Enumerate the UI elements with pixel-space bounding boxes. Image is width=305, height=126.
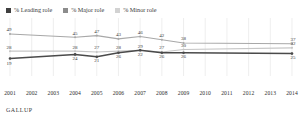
x-axis-tick-2013: 2013 bbox=[265, 89, 277, 97]
x-axis-tick-2008: 2008 bbox=[156, 89, 168, 97]
chart-legend: % Leading role % Major role % Minor role bbox=[6, 6, 156, 14]
data-label: 45 bbox=[73, 31, 79, 36]
cropped-header-text bbox=[0, 0, 305, 5]
data-label: 29 bbox=[138, 44, 144, 49]
series-point[interactable] bbox=[9, 33, 11, 35]
x-axis-tick-2012: 2012 bbox=[243, 89, 255, 97]
data-label: 38 bbox=[181, 36, 187, 41]
data-label: 32 bbox=[291, 41, 297, 46]
series-point[interactable] bbox=[96, 35, 98, 37]
series-point[interactable] bbox=[96, 51, 98, 53]
series-point[interactable] bbox=[183, 49, 185, 51]
data-label: 46 bbox=[138, 30, 144, 35]
x-axis-tick-2007: 2007 bbox=[134, 89, 146, 97]
data-label: 27 bbox=[94, 45, 100, 50]
series-point[interactable] bbox=[9, 50, 11, 52]
x-axis-tick-2009: 2009 bbox=[178, 89, 190, 97]
x-axis-tick-2011: 2011 bbox=[221, 89, 232, 97]
data-label: 24 bbox=[73, 56, 79, 61]
x-axis-tick-2002: 2002 bbox=[26, 89, 38, 97]
series-line--minor-role bbox=[10, 34, 292, 44]
chart-container: % Leading role % Major role % Minor role… bbox=[0, 0, 305, 126]
x-axis-tick-2003: 2003 bbox=[48, 89, 60, 97]
legend-label-major-role: % Major role bbox=[71, 6, 104, 14]
data-label: 43 bbox=[116, 32, 122, 37]
source-label: GALLUP bbox=[6, 106, 33, 115]
legend-item-leading-role[interactable]: % Leading role bbox=[6, 6, 52, 14]
series-point[interactable] bbox=[291, 47, 293, 49]
x-axis-tick-2001: 2001 bbox=[4, 89, 16, 97]
x-axis-tick-2005: 2005 bbox=[91, 89, 103, 97]
line-chart-svg: 4945474346423837282827282927303219242126… bbox=[0, 16, 305, 88]
series-point[interactable] bbox=[74, 36, 76, 38]
x-axis-tick-2006: 2006 bbox=[113, 89, 125, 97]
data-label: 26 bbox=[116, 54, 122, 59]
legend-swatch-leading-role bbox=[6, 8, 11, 13]
series-point[interactable] bbox=[117, 38, 119, 40]
legend-label-minor-role: % Minor role bbox=[123, 6, 156, 14]
data-label: 49 bbox=[7, 27, 13, 32]
legend-label-leading-role: % Leading role bbox=[14, 6, 52, 14]
data-label: 26 bbox=[159, 54, 165, 59]
data-label: 42 bbox=[159, 33, 165, 38]
legend-item-minor-role[interactable]: % Minor role bbox=[115, 6, 156, 14]
data-label: 22 bbox=[138, 52, 144, 57]
x-axis-tick-2004: 2004 bbox=[69, 89, 81, 97]
series-point[interactable] bbox=[139, 35, 141, 37]
data-label: 28 bbox=[7, 45, 13, 50]
data-label: 47 bbox=[94, 29, 100, 34]
data-label: 26 bbox=[181, 54, 187, 59]
data-label: 30 bbox=[181, 43, 187, 48]
data-label: 27 bbox=[159, 45, 165, 50]
series-point[interactable] bbox=[9, 57, 12, 60]
data-label: 21 bbox=[94, 58, 100, 63]
x-axis-tick-2014: 2014 bbox=[286, 89, 298, 97]
series-point[interactable] bbox=[161, 39, 163, 41]
legend-swatch-minor-role bbox=[115, 8, 120, 13]
legend-swatch-major-role bbox=[63, 8, 68, 13]
series-point[interactable] bbox=[74, 50, 76, 52]
data-label: 25 bbox=[291, 55, 297, 60]
chart-plot-area: 4945474346423837282827282927303219242126… bbox=[0, 16, 305, 88]
data-label: 19 bbox=[7, 61, 13, 66]
legend-item-major-role[interactable]: % Major role bbox=[63, 6, 104, 14]
x-axis: 2001200220032004200520062007200820092010… bbox=[0, 89, 305, 101]
data-label: 28 bbox=[116, 45, 122, 50]
data-label: 28 bbox=[73, 45, 79, 50]
x-axis-tick-2010: 2010 bbox=[199, 89, 211, 97]
